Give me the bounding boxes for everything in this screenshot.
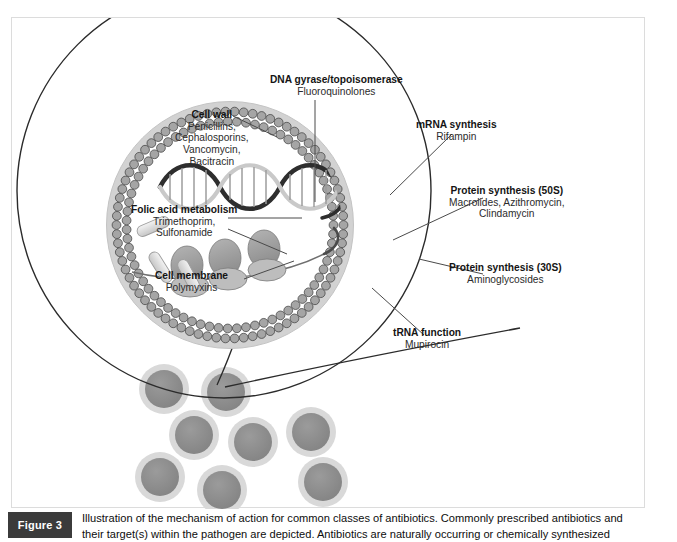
figure-number-badge: Figure 3	[8, 512, 72, 538]
label-drug: Polymyxins	[155, 282, 228, 294]
bacterium	[135, 452, 185, 502]
figure-caption-text: Illustration of the mechanism of action …	[82, 511, 670, 542]
bacterium	[286, 407, 336, 457]
bacterium	[228, 417, 278, 467]
figure-caption-row: Figure 3 Illustration of the mechanism o…	[0, 512, 677, 542]
figure-panel: DNA gyrase/topoisomerase Fluoroquinolone…	[11, 17, 645, 508]
label-drug: Bacitracin	[175, 156, 249, 168]
label-protein-synthesis-30s: Protein synthesis (30S) Aminoglycosides	[449, 262, 562, 285]
label-target: Cell wall	[175, 109, 249, 121]
bacterium	[197, 465, 247, 509]
label-target: DNA gyrase/topoisomerase	[270, 74, 403, 86]
label-target: Protein synthesis (30S)	[449, 262, 562, 274]
label-target: Folic acid metabolism	[131, 204, 237, 216]
label-drug: Aminoglycosides	[449, 274, 562, 286]
bacterium	[169, 410, 219, 460]
label-drug: Trimethoprim,	[131, 216, 237, 228]
label-drug: Cephalosporins,	[175, 132, 249, 144]
label-target: tRNA function	[393, 327, 461, 339]
label-drug: Rifampin	[416, 131, 497, 143]
label-trna-function: tRNA function Mupirocin	[393, 327, 461, 350]
label-drug: Fluoroquinolones	[270, 86, 403, 98]
label-drug: Penicillins,	[175, 121, 249, 133]
label-mrna-synthesis: mRNA synthesis Rifampin	[416, 119, 497, 142]
label-folic-acid-metabolism: Folic acid metabolism Trimethoprim, Sulf…	[131, 204, 237, 239]
label-drug: Macrolides, Azithromycin,	[449, 197, 565, 209]
figure-page: DNA gyrase/topoisomerase Fluoroquinolone…	[0, 0, 677, 542]
label-cell-membrane: Cell membrane Polymyxins	[155, 270, 228, 293]
label-drug: Vancomycin,	[175, 144, 249, 156]
label-drug: Mupirocin	[393, 339, 461, 351]
caption-line: Illustration of the mechanism of action …	[82, 511, 670, 527]
bacterium	[201, 367, 251, 417]
label-drug: Sulfonamide	[131, 227, 237, 239]
label-target: Protein synthesis (50S)	[449, 185, 565, 197]
label-target: mRNA synthesis	[416, 119, 497, 131]
label-dna-gyrase: DNA gyrase/topoisomerase Fluoroquinolone…	[270, 74, 403, 97]
bacteria-colony	[135, 364, 348, 509]
label-cell-wall: Cell wall Penicillins, Cephalosporins, V…	[175, 109, 249, 167]
label-drug: Clindamycin	[449, 208, 565, 220]
label-protein-synthesis-50s: Protein synthesis (50S) Macrolides, Azit…	[449, 185, 565, 220]
bacterium	[298, 457, 348, 507]
caption-line: their target(s) within the pathogen are …	[82, 527, 670, 542]
label-target: Cell membrane	[155, 270, 228, 282]
